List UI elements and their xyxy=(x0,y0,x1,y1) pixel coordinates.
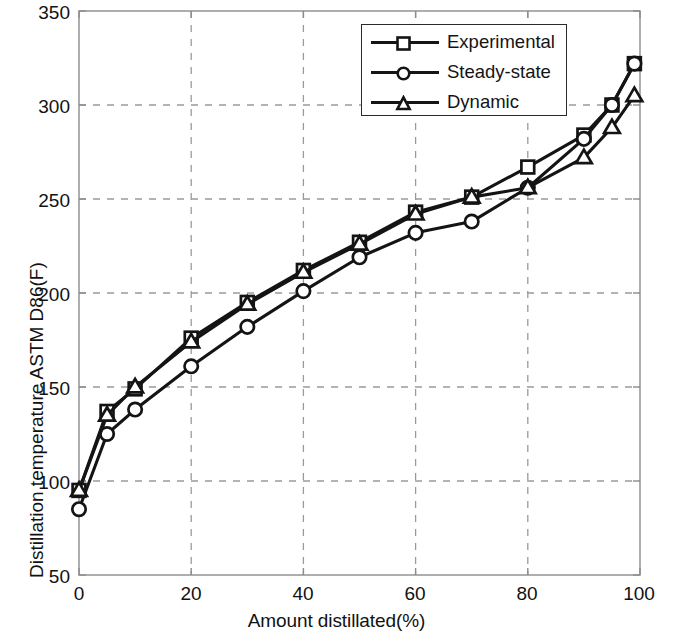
y-tick-label-200: 200 xyxy=(12,284,70,306)
legend: Experimental Steady-state Dynamic xyxy=(361,24,567,116)
series-steady-state xyxy=(72,57,641,516)
data-point xyxy=(605,98,618,111)
x-tick-label-40: 40 xyxy=(273,583,333,605)
square-marker-icon xyxy=(395,35,412,52)
data-point xyxy=(241,320,254,333)
x-tick-label-100: 100 xyxy=(609,583,669,605)
y-tick-label-300: 300 xyxy=(12,96,70,118)
y-tick-label-150: 150 xyxy=(12,378,70,400)
x-axis-title: Amount distillated(%) xyxy=(0,610,673,632)
data-point xyxy=(521,161,534,174)
circle-marker-icon xyxy=(395,65,412,82)
x-tick-label-0: 0 xyxy=(49,583,109,605)
series-dynamic xyxy=(71,88,642,496)
data-point xyxy=(128,403,141,416)
data-point xyxy=(185,360,198,373)
legend-label-steady-state: Steady-state xyxy=(447,61,551,83)
data-point xyxy=(409,226,422,239)
legend-sample-dynamic xyxy=(369,88,441,116)
data-series-layer xyxy=(71,57,642,516)
data-point xyxy=(628,57,641,70)
data-point xyxy=(353,251,366,264)
distillation-curve-chart: Distillation temperature ASTM D86(F) Amo… xyxy=(0,0,673,639)
data-point xyxy=(577,132,590,145)
y-axis-title: Distillation temperature ASTM D86(F) xyxy=(26,262,48,578)
y-tick-label-100: 100 xyxy=(12,472,70,494)
data-point xyxy=(297,284,310,297)
legend-sample-experimental xyxy=(369,28,441,56)
legend-entry-experimental: Experimental xyxy=(362,27,568,57)
plot-area xyxy=(0,0,673,639)
x-tick-label-20: 20 xyxy=(161,583,221,605)
data-point xyxy=(465,215,478,228)
y-tick-label-250: 250 xyxy=(12,190,70,212)
data-point xyxy=(72,503,85,516)
legend-sample-steady-state xyxy=(369,58,441,86)
legend-entry-steady-state: Steady-state xyxy=(362,57,568,87)
triangle-marker-icon xyxy=(395,95,412,112)
x-tick-label-80: 80 xyxy=(497,583,557,605)
y-tick-label-350: 350 xyxy=(12,2,70,24)
x-tick-label-60: 60 xyxy=(385,583,445,605)
series-experimental xyxy=(73,57,641,497)
legend-label-dynamic: Dynamic xyxy=(447,91,519,113)
legend-label-experimental: Experimental xyxy=(447,31,555,53)
legend-entry-dynamic: Dynamic xyxy=(362,87,568,117)
